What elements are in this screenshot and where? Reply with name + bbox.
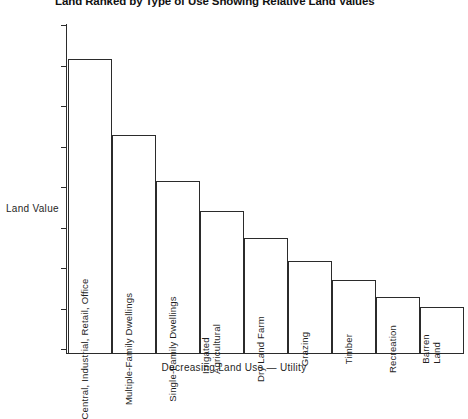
y-axis-tick xyxy=(61,268,67,269)
bar-label-holder: Grazing xyxy=(289,203,331,353)
y-axis-tick xyxy=(61,66,67,67)
bar-label-holder: Irrigated Agricultural xyxy=(201,203,243,353)
bar[interactable]: Single-Family Dwellings xyxy=(156,181,200,353)
bar-label: Multiple-Family Dwellings xyxy=(123,293,134,405)
y-axis-tick xyxy=(61,309,67,310)
y-axis-tick xyxy=(61,349,67,350)
y-axis-tick xyxy=(61,25,67,26)
bar[interactable]: Irrigated Agricultural xyxy=(200,211,244,353)
bar[interactable]: Multiple-Family Dwellings xyxy=(112,135,156,353)
bar[interactable]: Timber xyxy=(332,280,376,353)
bar[interactable]: Dry Land Farm xyxy=(244,238,288,353)
bar[interactable]: Central, Industrial, Retail, Office xyxy=(68,59,112,353)
bar-label-holder: Timber xyxy=(333,203,375,353)
bar-label-holder: Multiple-Family Dwellings xyxy=(113,203,155,353)
y-axis-tick xyxy=(61,228,67,229)
x-axis-title: Decreasing Land Use — Utility xyxy=(0,362,468,373)
bar-label-holder: Barren Land xyxy=(421,203,463,353)
bar-label-holder: Recreation xyxy=(377,203,419,353)
bar-label-holder: Central, Industrial, Retail, Office xyxy=(69,203,111,353)
bar[interactable]: Recreation xyxy=(376,297,420,353)
y-axis-title: Land Value xyxy=(6,203,59,214)
bar-label-holder: Dry Land Farm xyxy=(245,203,287,353)
bar-label: Barren Land xyxy=(420,334,442,364)
y-axis-tick xyxy=(61,106,67,107)
bar-label: Timber xyxy=(343,334,354,364)
plot-area: Central, Industrial, Retail, OfficeMulti… xyxy=(66,24,464,354)
bar[interactable]: Barren Land xyxy=(420,307,464,353)
y-axis-tick xyxy=(61,187,67,188)
bar-label: Single-Family Dwellings xyxy=(167,296,178,401)
bar[interactable]: Grazing xyxy=(288,261,332,353)
chart-title: Land Ranked by Type of Use Showing Relat… xyxy=(55,0,455,7)
bar-label-holder: Single-Family Dwellings xyxy=(157,203,199,353)
bar-label: Central, Industrial, Retail, Office xyxy=(79,279,90,419)
y-axis-tick xyxy=(61,147,67,148)
y-axis-line xyxy=(66,24,67,354)
